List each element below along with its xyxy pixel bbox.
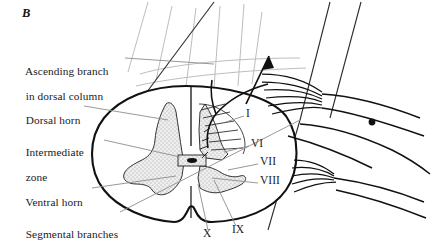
label-segmental-branches: Segmental branches [14, 216, 118, 251]
lamina-label-vi: VI [251, 137, 263, 149]
leader-ascending-branch [125, 58, 214, 64]
label-ascending-branch-line1: Ascending branch [25, 65, 108, 77]
ascending-arrow [246, 56, 274, 104]
label-segmental-branches-text: Segmental branches [26, 228, 118, 240]
label-ventral-horn-text: Ventral horn [26, 196, 83, 208]
ventral-root [334, 178, 426, 218]
lamina-label-ix: IX [232, 223, 244, 235]
lamina-label-vii: VII [260, 155, 276, 167]
lamina-label-x: X [203, 227, 211, 239]
ventral-rootlet-group [292, 160, 336, 192]
spinal-cord-outline [92, 86, 297, 222]
label-intermediate-zone-line2: zone [26, 171, 48, 183]
lamina-label-i: I [246, 107, 250, 119]
label-dorsal-horn-text: Dorsal horn [26, 114, 81, 126]
central-canal [187, 158, 197, 163]
label-intermediate-zone-line1: Intermediate [26, 146, 84, 158]
ganglion-cell-body [369, 119, 376, 126]
lamina-label-viii: VIII [260, 174, 280, 186]
label-ascending-branch-line2: in dorsal column [26, 90, 104, 102]
